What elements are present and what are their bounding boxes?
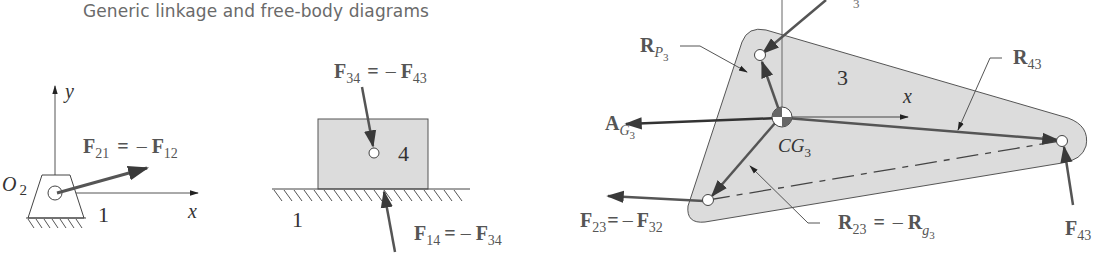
top-cut-subscript: 3 <box>853 0 860 11</box>
r-43-label: R43 <box>1013 46 1041 72</box>
r-23-label: R23=–Rg3 <box>838 211 935 241</box>
slider-pin-icon <box>369 148 379 158</box>
force-f14-label: F14=–F34 <box>414 222 502 248</box>
accel-ag3-label: AG3 <box>605 112 636 141</box>
center-of-gravity-icon <box>772 107 792 127</box>
y-axis-label: y <box>63 80 74 103</box>
coupler-x-axis-label: x <box>902 85 912 107</box>
slider-ground-number: 1 <box>292 207 303 232</box>
ground-link-number: 1 <box>98 202 109 227</box>
coupler-group: 3 x CG3 3 RP3 AG3 R43 F43 F23=–F32 R23=–… <box>580 0 1091 243</box>
slider-group: 4 1 F34=–F43 F14=–F34 <box>272 60 502 252</box>
ground-hatch-middle <box>274 190 462 201</box>
force-f43-label: F43 <box>1065 217 1091 243</box>
pin-left-icon <box>703 195 714 206</box>
slider-link-number: 4 <box>398 141 409 166</box>
x-axis-label: x <box>187 200 197 222</box>
force-f23-arrow <box>608 196 704 201</box>
pivot-label: O2 <box>2 173 27 198</box>
force-f14-arrow <box>384 192 395 252</box>
force-f21-label: F21=–F12 <box>83 135 178 161</box>
force-f23-label: F23=–F32 <box>580 209 663 235</box>
pin-right-icon <box>1057 136 1068 147</box>
pivot-base <box>28 175 84 218</box>
linkage-diagram: O2 1 x y F21=–F12 4 1 F34=–F43 F14=–F34 <box>0 0 1102 262</box>
ground-hatch-left <box>28 219 82 228</box>
pin-p3-icon <box>755 50 766 61</box>
r-p3-label: RP3 <box>640 34 669 63</box>
ground-pivot-group: O2 1 x y F21=–F12 <box>2 80 198 228</box>
coupler-link-number: 3 <box>837 65 848 90</box>
force-f34-label: F34=–F43 <box>334 60 427 86</box>
